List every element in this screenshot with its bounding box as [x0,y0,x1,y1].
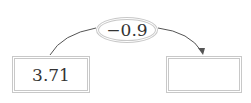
start-box: 3.71 [12,56,90,93]
right-arc [158,28,202,52]
start-value: 3.71 [32,65,70,85]
operation-oval: −0.9 [96,17,158,43]
result-box[interactable] [166,56,242,93]
arrowhead-icon [198,48,205,55]
left-arc [50,28,96,55]
operation-label: −0.9 [106,20,147,40]
